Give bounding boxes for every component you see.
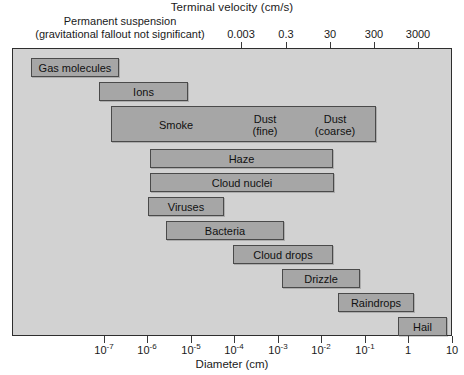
bottom-axis-tick-label: 10-1 xyxy=(355,344,374,356)
bar-cloud-nuclei: Cloud nuclei xyxy=(150,173,334,192)
tick-exponent: -3 xyxy=(281,342,288,351)
top-axis-tick-label: 0.003 xyxy=(227,28,255,40)
bar-hail: Hail xyxy=(398,317,447,336)
tick-exponent: -6 xyxy=(150,342,157,351)
bottom-axis-tick-mark xyxy=(104,336,105,343)
bottom-axis-tick-label: 10-2 xyxy=(311,344,330,356)
bottom-axis-tick-label: 10-4 xyxy=(224,344,243,356)
bar-label: Cloud drops xyxy=(253,249,312,261)
bar-label: Bacteria xyxy=(205,225,245,237)
bottom-axis-tick-label: 10-3 xyxy=(268,344,287,356)
plot-area: Gas moleculesIonsSmokeDust(fine)Dust(coa… xyxy=(12,48,452,336)
bottom-axis-tick-mark xyxy=(191,336,192,343)
bar-label: Viruses xyxy=(168,201,204,213)
tick-exponent: -1 xyxy=(368,342,375,351)
bottom-axis-tick-mark xyxy=(321,336,322,343)
bottom-axis-tick-mark xyxy=(452,336,453,343)
segment-dust-coarse: Dust(coarse) xyxy=(298,107,372,143)
tick-base: 10 xyxy=(181,344,193,356)
bar-raindrops: Raindrops xyxy=(338,293,414,312)
bottom-axis-tick-label: 10-6 xyxy=(137,344,156,356)
bar-smoke-dust: SmokeDust(fine)Dust(coarse) xyxy=(111,106,376,142)
tick-base: 10 xyxy=(137,344,149,356)
bar-label: Gas molecules xyxy=(39,62,112,74)
tick-exponent: -5 xyxy=(194,342,201,351)
tick-exponent: -4 xyxy=(237,342,244,351)
bar-ions: Ions xyxy=(99,82,188,101)
tick-base: 10 xyxy=(311,344,323,356)
tick-base: 10 xyxy=(446,344,458,356)
top-axis: 0.0030.3303003000 xyxy=(0,28,464,48)
bar-drizzle: Drizzle xyxy=(282,269,360,288)
bar-label: Raindrops xyxy=(351,297,401,309)
segment-dust-fine: Dust(fine) xyxy=(230,107,300,143)
bar-viruses: Viruses xyxy=(148,197,224,216)
bar-cloud-drops: Cloud drops xyxy=(233,245,333,264)
segment-smoke: Smoke xyxy=(120,107,232,143)
bottom-axis-tick-mark xyxy=(278,336,279,343)
top-axis-tick-label: 0.3 xyxy=(278,28,293,40)
bar-haze: Haze xyxy=(150,149,333,168)
bar-label: Hail xyxy=(413,321,432,333)
tick-base: 10 xyxy=(94,344,106,356)
bar-gas-molecules: Gas molecules xyxy=(31,58,119,77)
bottom-axis-tick-label: 10-5 xyxy=(181,344,200,356)
top-axis-title: Terminal velocity (cm/s) xyxy=(0,1,464,13)
top-axis-tick-label: 30 xyxy=(324,28,336,40)
bottom-axis-title: Diameter (cm) xyxy=(0,358,464,370)
bar-label: Ions xyxy=(133,86,154,98)
bottom-axis-tick-label: 1 xyxy=(405,344,411,356)
bar-label: Haze xyxy=(229,153,255,165)
particle-size-chart: Terminal velocity (cm/s) Permanent suspe… xyxy=(0,0,464,375)
bottom-axis-tick-label: 10 xyxy=(446,344,458,356)
bar-bacteria: Bacteria xyxy=(166,221,284,240)
bottom-axis-tick-mark xyxy=(147,336,148,343)
tick-exponent: -2 xyxy=(324,342,331,351)
bottom-axis-tick-mark xyxy=(365,336,366,343)
bar-label: Drizzle xyxy=(304,273,338,285)
tick-exponent: -7 xyxy=(107,342,114,351)
bottom-axis: 10-710-610-510-410-310-210-1110 xyxy=(0,336,464,360)
tick-base: 10 xyxy=(268,344,280,356)
top-axis-tick-label: 300 xyxy=(365,28,383,40)
bottom-axis-tick-mark xyxy=(234,336,235,343)
bar-label: Cloud nuclei xyxy=(212,177,273,189)
permanent-suspension-line1: Permanent suspension xyxy=(64,15,177,27)
top-axis-tick-label: 3000 xyxy=(406,28,430,40)
tick-base: 10 xyxy=(224,344,236,356)
tick-base: 10 xyxy=(355,344,367,356)
bottom-axis-tick-label: 10-7 xyxy=(94,344,113,356)
tick-base: 1 xyxy=(405,344,411,356)
bottom-axis-tick-mark xyxy=(408,336,409,343)
